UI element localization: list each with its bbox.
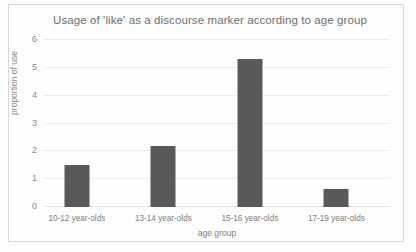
bar — [151, 146, 176, 207]
y-tick-label: 5 — [32, 62, 37, 72]
bar — [237, 59, 262, 207]
bar — [64, 165, 89, 207]
gridline: 2 — [44, 150, 390, 151]
y-tick-label: 3 — [32, 118, 37, 128]
y-tick-label: 0 — [32, 201, 37, 211]
gridline: 6 — [44, 39, 390, 40]
bar — [324, 189, 349, 207]
x-tick-label: 13-14 year-olds — [135, 214, 192, 223]
y-tick-label: 1 — [32, 173, 37, 183]
x-tick-label: 17-19 year-olds — [308, 214, 365, 223]
chart-figure: Usage of 'like' as a discourse marker ac… — [0, 0, 416, 252]
plot-area: 012345610-12 year-olds13-14 year-olds15-… — [44, 40, 390, 207]
gridline: 4 — [44, 95, 390, 96]
x-axis-title: age group — [44, 228, 390, 238]
y-tick-label: 2 — [32, 145, 37, 155]
y-axis-title: proportion of use — [9, 51, 19, 115]
chart-title: Usage of 'like' as a discourse marker ac… — [40, 14, 380, 26]
gridline: 1 — [44, 178, 390, 179]
gridline: 5 — [44, 67, 390, 68]
x-tick-label: 10-12 year-olds — [48, 214, 105, 223]
x-tick-label: 15-16 year-olds — [221, 214, 278, 223]
y-tick-label: 6 — [32, 34, 37, 44]
gridline: 3 — [44, 123, 390, 124]
y-tick-label: 4 — [32, 90, 37, 100]
